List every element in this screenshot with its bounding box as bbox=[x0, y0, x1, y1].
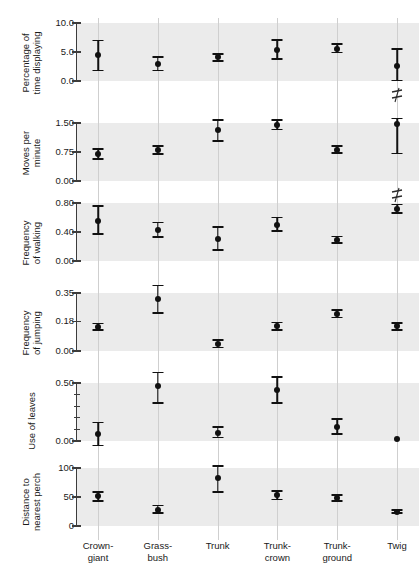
error-bar-cap-upper bbox=[392, 48, 403, 50]
data-marker bbox=[95, 431, 101, 437]
error-bar-cap-upper bbox=[212, 226, 223, 228]
error-bar-cap-lower bbox=[212, 249, 223, 251]
gridline-crown-giant bbox=[98, 378, 99, 463]
error-bar-cap-lower bbox=[93, 233, 104, 235]
y-axis-tick-major bbox=[72, 151, 81, 152]
gridline-grass-bush bbox=[158, 463, 159, 540]
y-axis-tick-major bbox=[72, 51, 81, 52]
x-axis-label-trunk-crown: Trunk-crown bbox=[264, 540, 291, 563]
data-marker bbox=[155, 227, 161, 233]
panel-percentage-of-time-displaying: Percentage oftime displaying0.05.010.0 bbox=[0, 18, 419, 108]
error-bar-cap-lower bbox=[212, 347, 223, 349]
y-axis-tick-major bbox=[72, 180, 81, 181]
plot-area-distance-to-nearest-perch bbox=[76, 463, 419, 540]
x-axis-label-grass-bush: Grass-bush bbox=[144, 540, 173, 563]
y-axis-tick-minor bbox=[74, 394, 80, 395]
y-axis-tick-major bbox=[72, 122, 81, 123]
data-marker bbox=[274, 492, 280, 498]
x-axis-label-line1: Grass- bbox=[144, 540, 173, 552]
error-bar-cap-lower bbox=[392, 212, 403, 214]
data-marker bbox=[394, 323, 400, 329]
error-bar-cap-upper bbox=[392, 118, 403, 120]
data-marker bbox=[155, 147, 161, 153]
plot-area-moves-per-minute bbox=[76, 108, 419, 198]
y-axis-title-line: Frequency bbox=[20, 221, 31, 266]
error-bar-cap-upper bbox=[93, 40, 104, 42]
shaded-band bbox=[76, 383, 419, 441]
y-axis-tick-labels-percentage-of-time-displaying: 0.05.010.0 bbox=[44, 18, 74, 108]
gridline-trunk-crown bbox=[277, 198, 278, 288]
y-axis-title-line: Moves per bbox=[20, 131, 31, 175]
error-bar-cap-lower bbox=[152, 402, 163, 404]
error-bar-cap-upper bbox=[212, 465, 223, 467]
error-bar-cap-lower bbox=[93, 500, 104, 502]
x-axis-label-line1: Trunk bbox=[206, 540, 230, 552]
gridline-twig bbox=[397, 378, 398, 463]
data-marker bbox=[274, 47, 280, 53]
gridline-trunk-crown bbox=[277, 463, 278, 540]
data-marker bbox=[334, 311, 340, 317]
data-marker bbox=[394, 509, 400, 515]
x-axis-label-line1: Twig bbox=[387, 540, 407, 552]
error-bar-cap-upper bbox=[152, 372, 163, 374]
data-marker bbox=[394, 206, 400, 212]
error-bar-cap-lower bbox=[212, 140, 223, 142]
x-axis-label-line1: Trunk- bbox=[264, 540, 291, 552]
y-axis-tick-major bbox=[72, 231, 81, 232]
gridline-trunk-ground bbox=[337, 288, 338, 378]
error-bar-cap-upper bbox=[93, 205, 104, 207]
x-axis-label-crown-giant: Crown-giant bbox=[83, 540, 114, 563]
error-bar-cap-upper bbox=[93, 491, 104, 493]
data-marker bbox=[274, 122, 280, 128]
gridline-trunk bbox=[218, 378, 219, 463]
y-axis-title-line: of jumping bbox=[31, 311, 42, 356]
gridline-twig bbox=[397, 463, 398, 540]
data-marker bbox=[215, 54, 221, 60]
data-marker bbox=[394, 121, 400, 127]
data-marker bbox=[155, 61, 161, 67]
y-axis-tick-minor bbox=[74, 429, 80, 430]
error-bar-cap-lower bbox=[272, 499, 283, 501]
data-marker bbox=[334, 147, 340, 153]
y-axis-tick-labels-frequency-of-walking: 0.000.400.80 bbox=[44, 198, 74, 288]
x-axis-label-twig: Twig bbox=[387, 540, 407, 552]
gridline-grass-bush bbox=[158, 198, 159, 288]
y-axis-spine bbox=[76, 383, 77, 441]
y-axis-tick-major bbox=[72, 80, 81, 81]
gridline-trunk-ground bbox=[337, 18, 338, 108]
y-axis-tick-major bbox=[72, 202, 81, 203]
x-axis-label-line2: giant bbox=[83, 552, 114, 564]
error-bar-cap-lower bbox=[272, 402, 283, 404]
gridline-trunk-crown bbox=[277, 18, 278, 108]
y-axis-tick-major bbox=[72, 350, 81, 351]
error-bar-cap-lower bbox=[93, 70, 104, 72]
y-axis-title-line: minute bbox=[31, 131, 42, 175]
error-bar-cap-lower bbox=[272, 329, 283, 331]
y-axis-title-line: Percentage of bbox=[20, 32, 31, 95]
error-bar-cap-lower bbox=[212, 491, 223, 493]
multi-panel-dot-whisker-chart: Percentage oftime displaying0.05.010.0Mo… bbox=[0, 0, 419, 586]
axis-break-icon bbox=[390, 87, 404, 103]
error-bar-cap-upper bbox=[212, 119, 223, 121]
error-bar-cap-lower bbox=[212, 437, 223, 439]
y-axis-title-line: Frequency bbox=[20, 311, 31, 356]
error-bar-cap-lower bbox=[332, 52, 343, 54]
data-marker bbox=[394, 63, 400, 69]
data-marker bbox=[95, 218, 101, 224]
y-axis-spine bbox=[76, 293, 77, 351]
y-axis-tick-minor bbox=[74, 417, 80, 418]
error-bar-cap-upper bbox=[93, 148, 104, 150]
x-axis-label-line1: Crown- bbox=[83, 540, 114, 552]
error-bar-cap-upper bbox=[272, 217, 283, 219]
y-axis-tick-labels-moves-per-minute: 0.000.751.50 bbox=[44, 108, 74, 198]
error-bar-cap-lower bbox=[93, 445, 104, 447]
data-marker bbox=[274, 222, 280, 228]
x-axis-label-line2: ground bbox=[322, 552, 352, 564]
error-bar-cap-upper bbox=[152, 222, 163, 224]
y-axis-tick-minor bbox=[74, 406, 80, 407]
error-bar-cap-upper bbox=[93, 422, 104, 424]
plot-area-percentage-of-time-displaying bbox=[76, 18, 419, 108]
data-marker bbox=[95, 493, 101, 499]
panel-frequency-of-jumping: Frequencyof jumping0.000.180.35 bbox=[0, 288, 419, 378]
data-marker bbox=[215, 475, 221, 481]
